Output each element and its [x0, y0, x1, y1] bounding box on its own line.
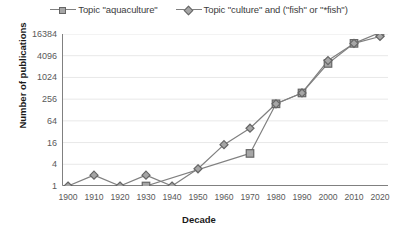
chart-container: Topic "aquaculture" Topic "culture" and …	[0, 0, 398, 232]
diamond-marker-icon	[176, 5, 202, 14]
x-tick-label: 1930	[136, 192, 155, 202]
axis-lines	[63, 34, 389, 186]
x-tick-label: 1980	[266, 192, 285, 202]
x-tick-label: 1910	[84, 192, 103, 202]
y-tick-label: 16	[47, 138, 57, 148]
data-point-marker[interactable]	[116, 182, 124, 186]
x-tick-label: 1920	[110, 192, 129, 202]
y-tick-label: 1	[52, 181, 57, 191]
y-tick-label: 16384	[32, 29, 57, 39]
y-tick-label: 64	[47, 116, 57, 126]
chart-svg	[62, 34, 388, 186]
data-point-marker[interactable]	[142, 171, 150, 179]
x-tick-label: 1900	[58, 192, 77, 202]
y-tick-label: 4096	[37, 51, 57, 61]
data-point-marker[interactable]	[376, 34, 384, 40]
x-tick-label: 1970	[240, 192, 259, 202]
y-tick-label: 1024	[37, 72, 57, 82]
legend-label-aquaculture: Topic "aquaculture"	[78, 4, 157, 15]
x-tick-label: 1960	[214, 192, 233, 202]
data-point-marker[interactable]	[246, 150, 254, 158]
y-tick-label: 256	[42, 94, 57, 104]
x-axis-title: Decade	[0, 214, 398, 225]
y-tick-label: 4	[52, 159, 57, 169]
data-point-marker[interactable]	[64, 182, 72, 186]
x-tick-label: 1990	[292, 192, 311, 202]
y-axis-tick-labels: 1416642561024409616384	[0, 34, 57, 186]
data-point-marker[interactable]	[90, 171, 98, 179]
plot-area	[62, 34, 388, 186]
square-marker-icon	[50, 5, 76, 14]
x-tick-label: 2000	[318, 192, 337, 202]
x-tick-label: 1950	[188, 192, 207, 202]
data-point-marker[interactable]	[142, 182, 150, 186]
chart-legend: Topic "aquaculture" Topic "culture" and …	[0, 4, 398, 15]
legend-item-aquaculture[interactable]: Topic "aquaculture"	[50, 4, 157, 15]
legend-label-culture-fish: Topic "culture" and ("fish" or "*fish")	[204, 4, 348, 15]
data-point-marker[interactable]	[168, 182, 176, 186]
x-tick-label: 1940	[162, 192, 181, 202]
x-tick-label: 2010	[344, 192, 363, 202]
legend-item-culture-fish[interactable]: Topic "culture" and ("fish" or "*fish")	[176, 4, 348, 15]
series-line-0	[146, 34, 380, 186]
x-tick-label: 2020	[370, 192, 389, 202]
